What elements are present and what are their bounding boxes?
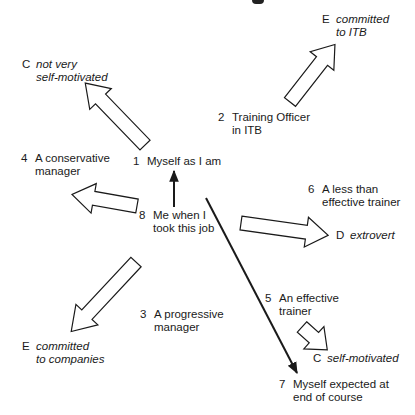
hollow-arrow-2-to-E	[278, 35, 347, 111]
hollow-arrow-6-to-D	[239, 208, 330, 250]
state-1-myself-as-i-am: 1Myself as I am	[133, 155, 221, 168]
hollow-arrow-3-to-E	[60, 252, 147, 342]
state-7-myself-expected: 7Myself expected at end of course	[279, 378, 389, 404]
outcome-c-self-motivated: Cself-motivated	[313, 352, 399, 365]
hollow-arrow-8-to-4	[69, 180, 139, 221]
state-2-training-officer: 2Training Officer in ITB	[218, 111, 310, 137]
outcome-d-extrovert: Dextrovert	[336, 229, 395, 242]
state-4-conservative-manager: 4A conservative manager	[21, 152, 110, 178]
state-5-effective-trainer: 5An effective trainer	[265, 292, 339, 318]
outcome-e-committed-companies: Ecommitted to companies	[22, 340, 104, 366]
state-3-progressive-manager: 3A progressive manager	[140, 308, 224, 334]
state-8-me-when-i-took-job: 8Me when I took this job	[139, 209, 214, 235]
state-6-less-effective-trainer: 6A less than effective trainer	[308, 183, 400, 209]
hollow-arrow-4-to-C	[74, 73, 155, 156]
outcome-c-not-self-motivated: Cnot very self-motivated	[22, 58, 108, 84]
outcome-e-committed-itb: Ecommitted to ITB	[322, 13, 389, 39]
